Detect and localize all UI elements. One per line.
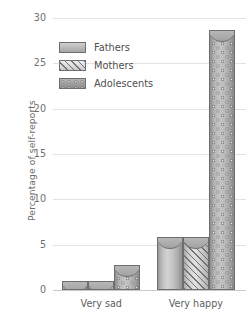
legend-swatch-fathers-icon: [59, 42, 86, 53]
legend-item-fathers: Fathers: [59, 39, 153, 55]
bar-cap: [114, 265, 140, 277]
y-tick-label-20: 20: [6, 103, 46, 114]
legend-label-fathers: Fathers: [94, 42, 130, 53]
bar-fathers-very-happy: [157, 237, 183, 290]
bar-cap: [209, 30, 235, 42]
y-tick-label-15: 15: [6, 148, 46, 159]
y-tick-label-10: 10: [6, 193, 46, 204]
bar-cap: [157, 237, 183, 249]
bar-mothers-very-sad: [88, 281, 114, 290]
gridline-30: [53, 18, 246, 19]
chart-legend: Fathers Mothers Adolescents: [59, 39, 153, 93]
y-tick-label-0: 0: [6, 284, 46, 295]
bar-cap: [62, 281, 88, 290]
legend-swatch-mothers-icon: [59, 60, 86, 71]
y-tick-label-30: 30: [6, 12, 46, 23]
legend-item-adolescents: Adolescents: [59, 75, 153, 91]
bar-adolescents-very-happy: [209, 30, 235, 290]
bar-fathers-very-sad: [62, 281, 88, 290]
legend-label-adolescents: Adolescents: [94, 78, 153, 89]
legend-swatch-adolescents-icon: [59, 78, 86, 89]
x-axis-label-very-happy: Very happy: [146, 298, 246, 309]
y-tick-label-25: 25: [6, 57, 46, 68]
y-axis-title: Percentage of self-reports: [26, 61, 37, 261]
bar-cap: [88, 281, 114, 290]
legend-label-mothers: Mothers: [94, 60, 134, 71]
bar-chart: Percentage of self-reports 051015202530 …: [0, 0, 251, 327]
gridline-0: [53, 290, 246, 291]
x-axis-label-very-sad: Very sad: [51, 298, 151, 309]
bar-mothers-very-happy: [183, 237, 209, 290]
bar-adolescents-very-sad: [114, 265, 140, 290]
y-tick-label-5: 5: [6, 239, 46, 250]
bar-cap: [183, 237, 209, 249]
legend-item-mothers: Mothers: [59, 57, 153, 73]
